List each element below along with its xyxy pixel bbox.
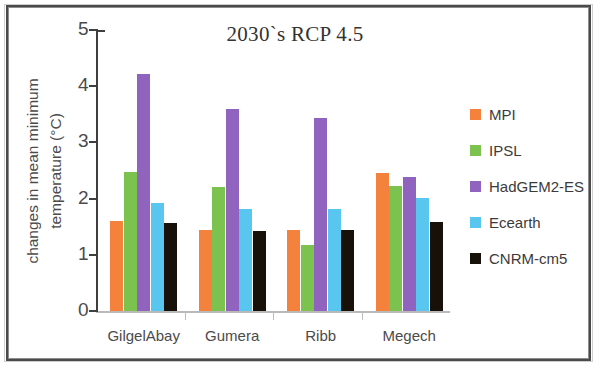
bar [376,173,389,311]
bar [430,222,443,311]
bar [314,118,327,311]
legend-item-ecearth[interactable]: Ecearth [470,204,584,240]
bar [341,230,354,311]
x-axis-category-label: GilgelAbay [107,327,180,344]
legend: MPIIPSLHadGEM2-ESEcearthCNRM-cm5 [470,96,584,276]
y-axis-title-line-2: temperature (°C) [47,113,64,229]
legend-swatch-icon [470,217,481,228]
category-separator [273,311,274,320]
bar [212,187,225,311]
legend-item-ipsl[interactable]: IPSL [470,132,584,168]
x-axis-category-label: Megech [383,327,436,344]
bar [226,109,239,311]
bar [110,221,123,311]
y-axis-tick-label: 4 [78,74,89,96]
bar-group: Megech [376,30,443,311]
bar [199,230,212,311]
bar [287,230,300,311]
bar [137,74,150,311]
bar [124,172,137,311]
category-separator [185,311,186,320]
chart-figure: 2030`s RCP 4.5 changes in mean minimum t… [0,0,597,366]
bar [416,198,429,311]
y-axis-tick: 2 [89,198,98,200]
legend-label: CNRM-cm5 [489,250,567,267]
y-axis-tick: 5 [89,29,98,31]
legend-swatch-icon [470,253,481,264]
bar [389,186,402,311]
y-axis-tick-label: 3 [78,130,89,152]
x-axis-category-label: Gumera [205,327,259,344]
legend-item-hadgem2-es[interactable]: HadGEM2-ES [470,168,584,204]
bar [328,209,341,311]
legend-item-cnrm-cm5[interactable]: CNRM-cm5 [470,240,584,276]
y-axis-tick: 1 [89,254,98,256]
y-axis-tick-label: 5 [78,18,89,40]
legend-label: MPI [489,106,516,123]
category-separator [362,311,363,320]
bar-group: Gumera [199,30,266,311]
bar-group: Ribb [287,30,354,311]
y-axis-tick-label: 0 [78,299,89,321]
legend-swatch-icon [470,181,481,192]
plot-area: 012345 GilgelAbayGumeraRibbMegech [96,30,450,311]
legend-swatch-icon [470,145,481,156]
bar [403,177,416,311]
legend-item-mpi[interactable]: MPI [470,96,584,132]
bar [253,231,266,311]
y-axis-tick: 4 [89,85,98,87]
y-axis-tick: 3 [89,141,98,143]
y-axis-line [96,30,98,311]
y-axis-title-line-1: changes in mean minimum [24,78,41,263]
legend-swatch-icon [470,109,481,120]
bar [239,209,252,311]
y-axis-title: changes in mean minimum temperature (°C) [16,40,72,302]
bar [151,203,164,311]
y-axis-tick: 0 [89,310,98,312]
legend-label: HadGEM2-ES [489,178,584,195]
y-axis-tick-label: 1 [78,242,89,264]
y-axis-tick-label: 2 [78,186,89,208]
bar [164,223,177,311]
x-axis-category-label: Ribb [305,327,336,344]
bar [301,245,314,311]
legend-label: IPSL [489,142,522,159]
legend-label: Ecearth [489,214,541,231]
bar-group: GilgelAbay [110,30,177,311]
